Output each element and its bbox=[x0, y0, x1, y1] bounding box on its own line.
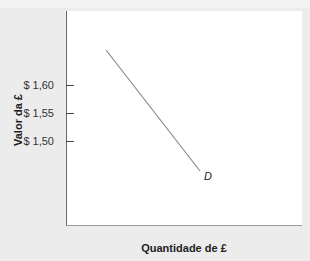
demand-curve bbox=[0, 0, 310, 261]
demand-curve-label: D bbox=[204, 170, 212, 182]
